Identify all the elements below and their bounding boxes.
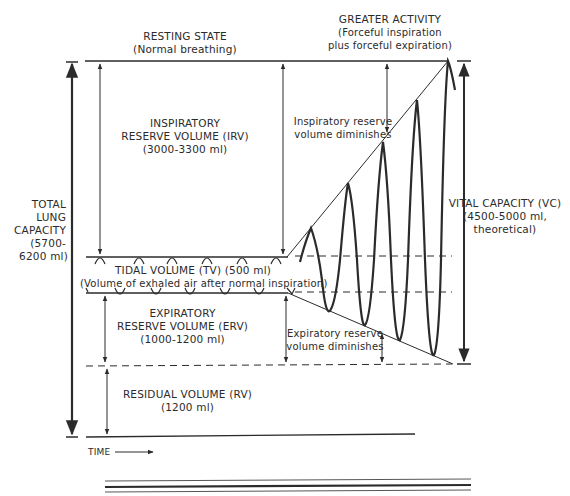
tlc-label-line2: LUNG (6, 211, 66, 224)
resting-state-subtitle: (Normal breathing) (125, 43, 245, 56)
tlc-label-line4: (5700- (6, 237, 66, 250)
tlc-label-line1: TOTAL (6, 198, 66, 211)
rv-label-line1: RESIDUAL VOLUME (RV) (115, 388, 260, 401)
vc-label-line3: theoretical) (440, 223, 570, 236)
greater-activity-line3: plus forceful expiration) (310, 39, 470, 52)
baseline (86, 434, 415, 437)
time-axis-label: TIME (88, 446, 118, 459)
erv-bottom-line (86, 364, 452, 366)
greater-activity-line2: (Forceful inspiration (310, 26, 470, 39)
resting-state-title: RESTING STATE (130, 30, 240, 43)
greater-activity-title: GREATER ACTIVITY (320, 13, 460, 26)
lung-volume-diagram (0, 0, 570, 496)
tv-label-line2: (Volume of exhaled air after normal insp… (80, 277, 305, 290)
tlc-label-line3: CAPACITY (6, 224, 66, 237)
tlc-label-line5: 6200 ml) (6, 250, 68, 263)
erv-diminishes-line1: Expiratory reserve (285, 327, 385, 340)
irv-label-line3: (3000-3300 ml) (110, 143, 260, 156)
erv-label-line1: EXPIRATORY (110, 307, 255, 320)
erv-diminishes-line2: volume diminishes (285, 340, 385, 353)
vc-label-line2: (4500-5000 ml, (440, 210, 570, 223)
irv-label-line2: RESERVE VOLUME (IRV) (110, 130, 260, 143)
irv-diminishes-line2: volume diminishes (288, 128, 398, 141)
tv-label-line1: TIDAL VOLUME (TV) (500 ml) (115, 264, 265, 277)
irv-diminishes-line1: Inspiratory reserve (288, 115, 398, 128)
irv-label-line1: INSPIRATORY (110, 117, 260, 130)
vc-label-line1: VITAL CAPACITY (VC) (440, 197, 570, 210)
erv-label-line3: (1000-1200 ml) (110, 333, 255, 346)
erv-label-line2: RESERVE VOLUME (ERV) (110, 320, 255, 333)
rv-label-line2: (1200 ml) (115, 401, 260, 414)
forceful-breathing-trace (300, 61, 455, 355)
